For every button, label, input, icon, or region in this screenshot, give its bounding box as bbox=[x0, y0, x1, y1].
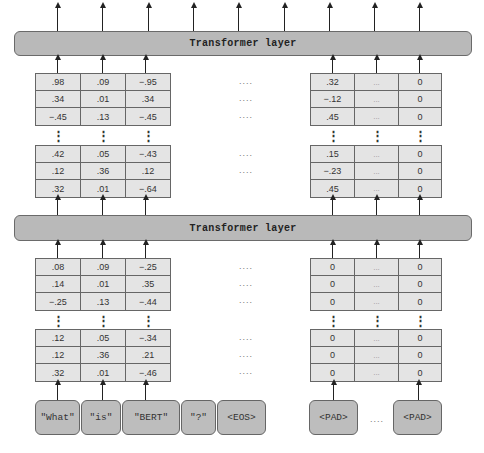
lower-left-embedding-top: .08 .09 −.25 .14 .01 .35 −.25 .13 −.44 bbox=[35, 258, 171, 311]
embedding-cell: .36 bbox=[81, 163, 126, 180]
arrow-up-icon bbox=[145, 384, 146, 400]
embedding-cell: .21 bbox=[126, 347, 170, 364]
arrow-up-icon bbox=[333, 384, 334, 400]
arrow-up-icon bbox=[332, 199, 333, 215]
arrow-up-icon bbox=[57, 384, 58, 400]
embedding-cell: .12 bbox=[126, 163, 170, 180]
embedding-cell: .98 bbox=[36, 74, 81, 91]
upper-right-embedding-bottom: .15 ... 0 −.23 ... 0 .45 ... 0 bbox=[310, 145, 442, 198]
token-pad: <PAD> bbox=[393, 400, 442, 435]
embedding-cell: .42 bbox=[36, 146, 81, 163]
arrow-up-icon bbox=[419, 7, 420, 31]
embedding-cell: .05 bbox=[81, 330, 126, 347]
embedding-cell: ... bbox=[355, 146, 399, 163]
vertical-ellipsis: ⋮ bbox=[414, 314, 424, 327]
horizontal-ellipsis: .... bbox=[239, 165, 253, 175]
arrow-up-icon bbox=[419, 244, 420, 258]
arrow-up-icon bbox=[102, 7, 103, 31]
embedding-cell: −.25 bbox=[126, 259, 170, 276]
arrow-up-icon bbox=[57, 7, 58, 31]
embedding-cell: 0 bbox=[311, 347, 355, 364]
vertical-ellipsis: ⋮ bbox=[97, 129, 107, 142]
arrow-up-icon bbox=[238, 7, 239, 31]
token-eos: <EOS> bbox=[217, 400, 266, 435]
token-pad: <PAD> bbox=[309, 400, 358, 435]
layer-label: Transformer layer bbox=[189, 38, 296, 49]
token-what: "What" bbox=[35, 400, 80, 435]
embedding-cell: −.45 bbox=[36, 108, 81, 125]
embedding-cell: −.95 bbox=[126, 74, 170, 91]
horizontal-ellipsis: .... bbox=[239, 110, 253, 120]
embedding-cell: 0 bbox=[311, 276, 355, 293]
arrow-up-icon bbox=[193, 7, 194, 31]
embedding-cell: ... bbox=[355, 108, 399, 125]
vertical-ellipsis: ⋮ bbox=[52, 129, 62, 142]
embedding-cell: ... bbox=[355, 163, 399, 180]
embedding-cell: 0 bbox=[399, 74, 441, 91]
token-label: "is" bbox=[90, 412, 113, 423]
embedding-cell: .36 bbox=[81, 347, 126, 364]
embedding-cell: .01 bbox=[81, 91, 126, 108]
embedding-cell: .09 bbox=[81, 259, 126, 276]
embedding-cell: 0 bbox=[399, 293, 441, 310]
embedding-cell: −.44 bbox=[126, 293, 170, 310]
arrow-up-icon bbox=[376, 244, 377, 258]
horizontal-ellipsis: .... bbox=[239, 349, 253, 359]
embedding-cell: ... bbox=[355, 330, 399, 347]
embedding-cell: 0 bbox=[311, 259, 355, 276]
embedding-cell: .32 bbox=[311, 74, 355, 91]
embedding-cell: ... bbox=[355, 364, 399, 381]
embedding-cell: .35 bbox=[126, 276, 170, 293]
embedding-cell: ... bbox=[355, 74, 399, 91]
embedding-cell: 0 bbox=[399, 276, 441, 293]
arrow-up-icon bbox=[102, 59, 103, 73]
embedding-cell: −.34 bbox=[126, 330, 170, 347]
token-question-mark: "?" bbox=[181, 400, 216, 435]
layer-label: Transformer layer bbox=[189, 223, 296, 234]
embedding-cell: ... bbox=[355, 347, 399, 364]
upper-left-embedding-top: .98 .09 −.95 .34 .01 .34 −.45 .13 −.45 bbox=[35, 73, 171, 126]
horizontal-ellipsis: .... bbox=[370, 414, 384, 424]
embedding-cell: −.45 bbox=[126, 108, 170, 125]
horizontal-ellipsis: .... bbox=[239, 261, 253, 271]
arrow-up-icon bbox=[332, 244, 333, 258]
arrow-up-icon bbox=[145, 199, 146, 215]
token-is: "is" bbox=[81, 400, 121, 435]
embedding-cell: .34 bbox=[36, 91, 81, 108]
horizontal-ellipsis: .... bbox=[239, 295, 253, 305]
embedding-cell: 0 bbox=[311, 330, 355, 347]
arrow-up-icon bbox=[148, 7, 149, 31]
embedding-cell: ... bbox=[355, 276, 399, 293]
embedding-cell: −.23 bbox=[311, 163, 355, 180]
embedding-cell: .08 bbox=[36, 259, 81, 276]
arrow-up-icon bbox=[418, 384, 419, 400]
lower-left-embedding-bottom: .12 .05 −.34 .12 .36 .21 .32 .01 −.46 bbox=[35, 329, 171, 382]
arrow-up-icon bbox=[145, 59, 146, 73]
horizontal-ellipsis: .... bbox=[239, 278, 253, 288]
arrow-up-icon bbox=[376, 199, 377, 215]
arrow-up-icon bbox=[376, 59, 377, 73]
token-bert: "BERT" bbox=[122, 400, 180, 435]
arrow-up-icon bbox=[332, 59, 333, 73]
embedding-cell: .45 bbox=[311, 108, 355, 125]
horizontal-ellipsis: .... bbox=[239, 76, 253, 86]
vertical-ellipsis: ⋮ bbox=[97, 314, 107, 327]
horizontal-ellipsis: .... bbox=[239, 332, 253, 342]
embedding-cell: .12 bbox=[36, 347, 81, 364]
token-label: <PAD> bbox=[403, 412, 432, 423]
token-label: "?" bbox=[190, 412, 207, 423]
arrow-up-icon bbox=[374, 7, 375, 31]
lower-right-embedding-top: 0 ... 0 0 ... 0 0 ... 0 bbox=[310, 258, 442, 311]
transformer-layer-bottom: Transformer layer bbox=[14, 215, 472, 241]
lower-right-embedding-bottom: 0 ... 0 0 ... 0 0 ... 0 bbox=[310, 329, 442, 382]
embedding-cell: .09 bbox=[81, 74, 126, 91]
embedding-cell: 0 bbox=[399, 163, 441, 180]
vertical-ellipsis: ⋮ bbox=[371, 129, 381, 142]
embedding-cell: ... bbox=[355, 91, 399, 108]
vertical-ellipsis: ⋮ bbox=[52, 314, 62, 327]
vertical-ellipsis: ⋮ bbox=[414, 129, 424, 142]
vertical-ellipsis: ⋮ bbox=[371, 314, 381, 327]
embedding-cell: 0 bbox=[399, 146, 441, 163]
embedding-cell: −.25 bbox=[36, 293, 81, 310]
horizontal-ellipsis: .... bbox=[239, 148, 253, 158]
